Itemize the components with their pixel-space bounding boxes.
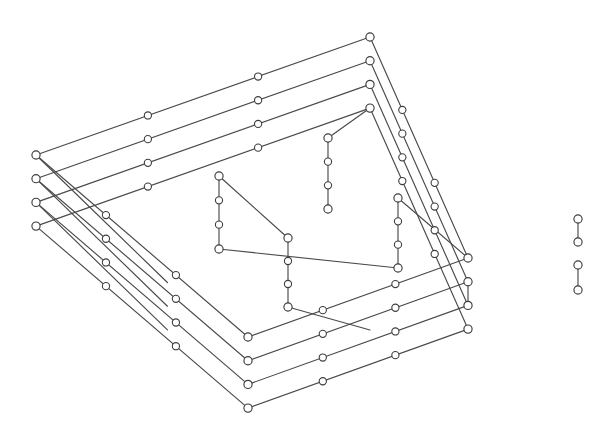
ring-node-2-se-1 — [319, 330, 326, 337]
inner-node-inner-column-right-3 — [394, 241, 401, 248]
ring-corner-west-2 — [32, 175, 40, 183]
ring-edge-1-se — [248, 258, 468, 337]
ring-edge-2-ne — [370, 61, 468, 282]
ring-corner-north-1 — [366, 33, 374, 41]
ring-node-2-ws-2 — [172, 295, 179, 302]
ring-node-3-wn-1 — [144, 159, 151, 166]
ring-corner-east-1 — [464, 254, 472, 262]
ring-corner-south-2 — [244, 357, 252, 365]
ring-corner-north-4 — [366, 104, 374, 112]
west-stack-tie-3 — [36, 202, 167, 330]
inner-node-inner-column-left-2 — [215, 197, 222, 204]
ring-edge-3-wn — [36, 84, 370, 202]
inner-node-inner-column-mid-4 — [284, 303, 292, 311]
inner-node-inner-column-left-1 — [215, 172, 223, 180]
ring-node-3-ws-2 — [172, 319, 179, 326]
ring-corner-east-2 — [464, 278, 472, 286]
inner-node-inner-column-mid-1 — [284, 234, 292, 242]
ring-node-4-ne-2 — [431, 250, 438, 257]
right-pair-upper-node-bottom — [574, 238, 582, 246]
ring-edge-3-ws — [36, 202, 248, 384]
inner-node-inner-column-upper-right-1 — [324, 134, 332, 142]
ring-corner-east-4 — [464, 325, 472, 333]
right-pair-lower-node-top — [574, 261, 582, 269]
inner-node-inner-column-upper-right-3 — [324, 182, 331, 189]
ring-node-1-wn-1 — [144, 112, 151, 119]
inner-node-inner-column-upper-right-2 — [324, 158, 331, 165]
ring-node-4-wn-2 — [255, 144, 262, 151]
ring-node-1-se-1 — [319, 307, 326, 314]
ring-corner-west-4 — [32, 222, 40, 230]
ring-corner-south-4 — [244, 404, 252, 412]
ring-node-4-wn-1 — [144, 183, 151, 190]
isometric-node-link-graph — [0, 0, 616, 434]
ring-node-4-se-1 — [319, 378, 326, 385]
ring-corner-north-2 — [366, 57, 374, 65]
ring-node-2-se-2 — [392, 304, 399, 311]
ring-node-2-wn-2 — [255, 97, 262, 104]
ring-node-3-ws-1 — [102, 259, 109, 266]
inner-diag-left-bottom-to-right-mid — [219, 249, 398, 268]
right-pair-lower-node-bottom — [574, 286, 582, 294]
ring-corner-east-3 — [464, 301, 472, 309]
ring-node-2-wn-1 — [144, 136, 151, 143]
inner-node-inner-column-left-4 — [215, 245, 223, 253]
inner-node-inner-column-right-2 — [394, 218, 401, 225]
ring-node-4-ws-1 — [102, 283, 109, 290]
edges-group — [36, 37, 578, 408]
ring-edge-2-ws — [36, 179, 248, 361]
inner-diag-upper-right-to-north — [328, 108, 370, 138]
ring-node-1-se-2 — [392, 280, 399, 287]
ring-edge-3-ne — [370, 84, 468, 305]
ring-edge-1-wn — [36, 37, 370, 155]
inner-diag-left-top-to-mid-top — [219, 176, 288, 238]
ring-node-3-ne-1 — [399, 154, 406, 161]
ring-node-3-se-2 — [392, 328, 399, 335]
ring-node-1-ws-2 — [172, 272, 179, 279]
ring-edge-4-se — [248, 329, 468, 408]
ring-edge-4-ws — [36, 226, 248, 408]
inner-node-inner-column-mid-3 — [284, 280, 291, 287]
ring-corner-south-1 — [244, 333, 252, 341]
ring-node-3-ne-2 — [431, 227, 438, 234]
figure-root — [0, 0, 616, 434]
ring-edge-4-wn — [36, 108, 370, 226]
inner-node-inner-column-left-3 — [215, 221, 222, 228]
ring-node-2-ne-1 — [399, 130, 406, 137]
ring-node-3-wn-2 — [255, 120, 262, 127]
ring-edge-2-wn — [36, 61, 370, 179]
ring-corner-west-1 — [32, 151, 40, 159]
ring-node-1-ne-1 — [399, 106, 406, 113]
ring-edge-4-ne — [370, 108, 468, 329]
ring-corner-west-3 — [32, 198, 40, 206]
ring-node-4-ne-1 — [399, 177, 406, 184]
right-pair-upper-node-top — [574, 215, 582, 223]
inner-node-inner-column-upper-right-4 — [324, 205, 332, 213]
ring-edge-3-se — [248, 305, 468, 384]
ring-corner-south-3 — [244, 380, 252, 388]
ring-node-1-ne-2 — [431, 179, 438, 186]
ring-node-4-ws-2 — [172, 343, 179, 350]
ring-node-3-se-1 — [319, 354, 326, 361]
ring-edge-1-ne — [370, 37, 468, 258]
ring-node-2-ws-1 — [102, 235, 109, 242]
ring-node-2-ne-2 — [431, 203, 438, 210]
ring-node-4-se-2 — [392, 352, 399, 359]
ring-node-1-ws-1 — [102, 211, 109, 218]
inner-node-inner-column-right-4 — [394, 264, 402, 272]
ring-edge-2-se — [248, 282, 468, 361]
ring-node-1-wn-2 — [255, 73, 262, 80]
inner-node-inner-column-right-1 — [394, 194, 402, 202]
ring-corner-north-3 — [366, 80, 374, 88]
inner-node-inner-column-mid-2 — [284, 257, 291, 264]
